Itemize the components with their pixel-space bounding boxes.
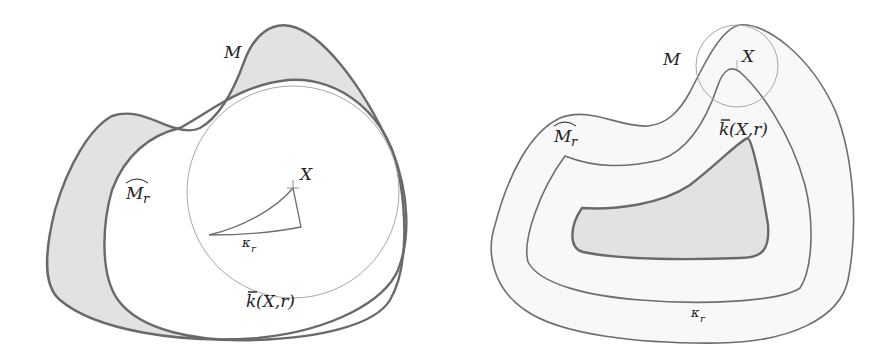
diagram-canvas: M M r X κ r k (X,r) M M r X k (X,r) κ bbox=[0, 0, 894, 358]
right-label-k-bar-args: (X,r) bbox=[729, 119, 768, 139]
right-label-M-hat: M bbox=[553, 126, 572, 146]
left-label-k-bar-args: (X,r) bbox=[256, 291, 295, 311]
right-panel: M M r X k (X,r) κ r bbox=[491, 25, 853, 343]
right-label-kappa: κ bbox=[690, 305, 700, 320]
figure: M M r X κ r k (X,r) M M r X k (X,r) κ bbox=[0, 0, 894, 358]
left-label-k-bar: k bbox=[246, 291, 256, 311]
left-label-kappa: κ bbox=[241, 235, 251, 250]
left-label-M-hat: M bbox=[125, 183, 144, 203]
left-label-M: M bbox=[223, 42, 242, 62]
right-shape-M bbox=[491, 25, 853, 343]
left-label-M-hat-sub: r bbox=[143, 191, 150, 206]
right-label-X: X bbox=[740, 46, 755, 66]
right-label-M-hat-sub: r bbox=[571, 134, 578, 149]
left-label-X: X bbox=[298, 164, 313, 184]
right-label-M: M bbox=[662, 49, 681, 69]
left-panel: M M r X κ r k (X,r) bbox=[47, 25, 406, 340]
right-label-k-bar: k bbox=[719, 119, 729, 139]
